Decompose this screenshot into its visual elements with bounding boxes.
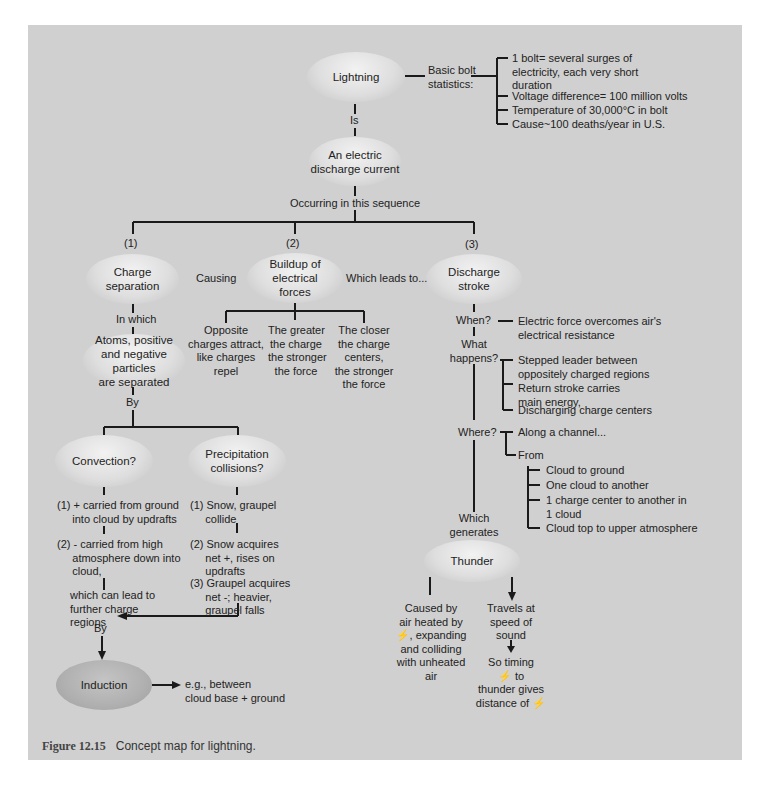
link-causing: Causing: [196, 272, 236, 286]
stat-deaths: Cause~100 deaths/year in U.S.: [512, 118, 665, 132]
when-description: Electric force overcomes air'selectrical…: [518, 315, 661, 342]
thunder-timing-distance: So timing⚡ tothunder givesdistance of ⚡: [471, 656, 551, 710]
convection-step-2: (2) - carried from high atmosphere down …: [57, 538, 181, 579]
force-opposite-charges: Oppositecharges attract,like chargesrepe…: [188, 324, 264, 378]
link-which-leads-to: Which leads to...: [346, 272, 427, 286]
stat-bolt-surges: 1 bolt= several surges ofelectricity, ea…: [512, 52, 638, 93]
link-which-generates: Whichgenerates: [446, 512, 502, 539]
step-2-label: (2): [286, 237, 299, 251]
precipitation-step-3: (3) Graupel acquires net -; heavier, gra…: [190, 577, 290, 618]
from-cloud-to-ground: Cloud to ground: [546, 464, 624, 478]
from-cloud-to-cloud: One cloud to another: [546, 479, 649, 493]
induction-example: e.g., betweencloud base + ground: [185, 678, 285, 705]
node-convection: Convection?: [55, 435, 153, 487]
node-discharge-label: An electricdischarge current: [311, 148, 400, 176]
link-in-which: In which: [116, 313, 156, 327]
where-along-channel: Along a channel...: [518, 426, 606, 440]
node-buildup-label: Buildup ofelectricalforces: [269, 257, 320, 299]
link-from: From: [518, 449, 544, 463]
from-charge-center: 1 charge center to another in1 cloud: [546, 494, 687, 521]
precipitation-step-1: (1) Snow, graupel collide: [190, 499, 276, 526]
node-atoms-label: Atoms, positiveand negative particlesare…: [83, 333, 185, 389]
link-basic-bolt-statistics: Basic boltstatistics:: [428, 64, 472, 91]
happens-stepped-leader: Stepped leader betweenoppositely charged…: [518, 354, 649, 381]
node-convection-label: Convection?: [72, 454, 136, 468]
stat-voltage: Voltage difference= 100 million volts: [512, 90, 688, 104]
node-discharge-stroke-label: Dischargestroke: [448, 265, 500, 293]
link-is: Is: [350, 114, 359, 128]
stat-temperature: Temperature of 30,000°C in bolt: [512, 104, 667, 118]
step-3-label: (3): [465, 238, 478, 252]
diagram-panel: [28, 25, 742, 760]
node-electric-discharge-current: An electricdischarge current: [309, 137, 401, 186]
step-1-label: (1): [124, 237, 137, 251]
node-lightning-label: Lightning: [333, 70, 380, 84]
node-precipitation-collisions: Precipitationcollisions?: [188, 435, 286, 487]
link-when: When?: [456, 314, 491, 328]
link-what-happens: Whathappens?: [449, 338, 499, 365]
node-thunder-label: Thunder: [451, 554, 494, 568]
link-where: Where?: [458, 426, 497, 440]
thunder-cause: Caused byair heated by⚡, expandingand co…: [395, 602, 467, 683]
node-precipitation-label: Precipitationcollisions?: [205, 447, 268, 475]
node-buildup-forces: Buildup ofelectricalforces: [247, 253, 343, 303]
happens-discharging-centers: Discharging charge centers: [518, 404, 652, 418]
precipitation-step-2: (2) Snow acquires net +, rises on updraf…: [190, 538, 279, 579]
force-closer-centers: The closerthe chargecenters,the stronger…: [332, 324, 396, 392]
thunder-travel-speed: Travels atspeed ofsound: [480, 602, 542, 643]
node-discharge-stroke: Dischargestroke: [426, 254, 522, 304]
figure-label: Figure 12.15: [42, 739, 106, 753]
node-induction-label: Induction: [81, 678, 128, 692]
link-by: By: [126, 396, 139, 410]
node-charge-separation-label: Chargeseparation: [106, 265, 160, 293]
convection-further-regions: which can lead tofurther chargeregions: [70, 589, 155, 630]
figure-caption: Figure 12.15Concept map for lightning.: [42, 739, 256, 754]
node-thunder: Thunder: [424, 540, 520, 582]
link-occurring-in-sequence: Occurring in this sequence: [285, 197, 425, 211]
node-lightning: Lightning: [307, 52, 405, 102]
from-cloud-top: Cloud top to upper atmosphere: [546, 522, 698, 536]
figure-caption-text: Concept map for lightning.: [116, 739, 256, 753]
convection-step-1: (1) + carried from ground into cloud by …: [57, 499, 179, 526]
node-charge-separation: Chargeseparation: [86, 254, 179, 304]
force-greater-charge: The greaterthe chargethe strongerthe for…: [268, 324, 324, 378]
node-atoms-separated: Atoms, positiveand negative particlesare…: [83, 334, 185, 387]
node-induction: Induction: [56, 660, 152, 710]
